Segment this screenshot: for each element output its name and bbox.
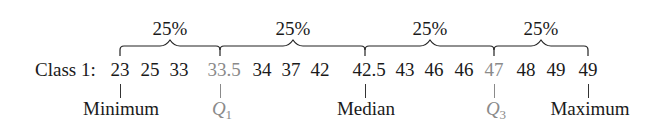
row-label: Class 1:: [35, 60, 96, 79]
q1-label: Q1: [212, 99, 232, 123]
value-3: 33: [170, 60, 189, 79]
value-2: 25: [141, 60, 160, 79]
value-13: 48: [517, 60, 536, 79]
value-6: 37: [282, 60, 301, 79]
value-5: 34: [253, 60, 272, 79]
segment-2-percent: 25%: [276, 19, 311, 38]
brace-segment-2: [220, 40, 365, 56]
value-15: 49: [579, 60, 598, 79]
maximum-tick: [588, 84, 589, 98]
q1-subscript: 1: [226, 107, 233, 122]
q3-subscript: 3: [500, 107, 507, 122]
value-9: 43: [396, 60, 415, 79]
segment-4-percent: 25%: [524, 19, 559, 38]
brace-segment-4: [494, 40, 588, 56]
value-12-q3: 47: [485, 60, 504, 79]
q1-tick: [220, 84, 221, 98]
value-11: 46: [455, 60, 474, 79]
segment-3-percent: 25%: [413, 19, 448, 38]
value-10: 46: [425, 60, 444, 79]
median-label: Median: [337, 99, 395, 118]
segment-1-percent: 25%: [153, 19, 188, 38]
q3-letter: Q: [486, 98, 500, 119]
brace-segment-1: [120, 40, 220, 56]
value-8-median: 42.5: [352, 60, 385, 79]
q1-letter: Q: [212, 98, 226, 119]
maximum-label: Maximum: [550, 99, 629, 118]
value-1: 23: [111, 60, 130, 79]
value-14: 49: [547, 60, 566, 79]
minimum-label: Minimum: [83, 99, 159, 118]
minimum-tick: [120, 84, 121, 98]
q3-tick: [494, 84, 495, 98]
median-tick: [365, 84, 366, 98]
brace-segment-3: [365, 40, 494, 56]
value-7: 42: [311, 60, 330, 79]
q3-label: Q3: [486, 99, 506, 123]
value-4-q1: 33.5: [207, 60, 240, 79]
